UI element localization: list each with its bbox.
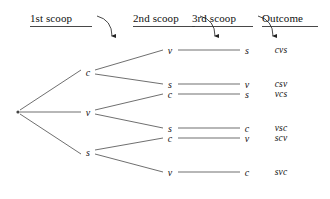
branch-level2-5 bbox=[95, 154, 163, 172]
third-scoop-node-n-svc: c bbox=[245, 167, 249, 178]
header-arrow-group bbox=[97, 16, 273, 36]
second-scoop-node-n-sc: c bbox=[168, 133, 172, 144]
outcome-out-scv: scv bbox=[275, 133, 288, 143]
root-node-dot bbox=[16, 110, 19, 113]
outcome-out-cvs: cvs bbox=[275, 45, 288, 55]
outcome-out-vcs: vcs bbox=[275, 89, 288, 99]
tree-diagram-figure: 1st scoop2nd scoop3rd scoopOutcome cvs v… bbox=[0, 0, 330, 199]
third-scoop-node-n-scv: v bbox=[245, 133, 249, 144]
second-scoop-node-n-cv: v bbox=[168, 45, 172, 56]
outcome-out-svc: svc bbox=[275, 167, 288, 177]
branch-level1-2 bbox=[20, 114, 81, 154]
column-header-col2: 2nd scoop bbox=[133, 12, 179, 24]
branch-level2-2 bbox=[95, 94, 163, 110]
third-scoop-node-n-vcs: s bbox=[245, 89, 249, 100]
column-header-col3: 3rd scoop bbox=[192, 12, 236, 24]
edge-group-level-3 bbox=[178, 50, 240, 172]
branch-level2-4 bbox=[95, 138, 163, 150]
column-header-col1: 1st scoop bbox=[30, 12, 72, 24]
second-scoop-node-n-vc: c bbox=[168, 89, 172, 100]
header-curved-arrow-col1 bbox=[97, 16, 112, 36]
root-node-group bbox=[16, 110, 19, 113]
third-scoop-node-n-cvs: s bbox=[245, 45, 249, 56]
outcome-out-csv: csv bbox=[275, 79, 288, 89]
branch-level2-0 bbox=[95, 50, 163, 70]
first-scoop-node-n-v: v bbox=[86, 107, 90, 118]
branch-level2-3 bbox=[95, 114, 163, 128]
column-header-col4: Outcome bbox=[262, 12, 303, 24]
first-scoop-node-n-c: c bbox=[86, 67, 90, 78]
branch-level1-0 bbox=[20, 70, 81, 110]
edge-group-level-2 bbox=[95, 50, 163, 172]
first-scoop-node-n-s: s bbox=[86, 147, 90, 158]
second-scoop-node-n-sv: v bbox=[168, 167, 172, 178]
outcome-out-vsc: vsc bbox=[275, 123, 288, 133]
edge-group-level-1 bbox=[20, 70, 81, 154]
branch-level2-1 bbox=[95, 74, 163, 84]
